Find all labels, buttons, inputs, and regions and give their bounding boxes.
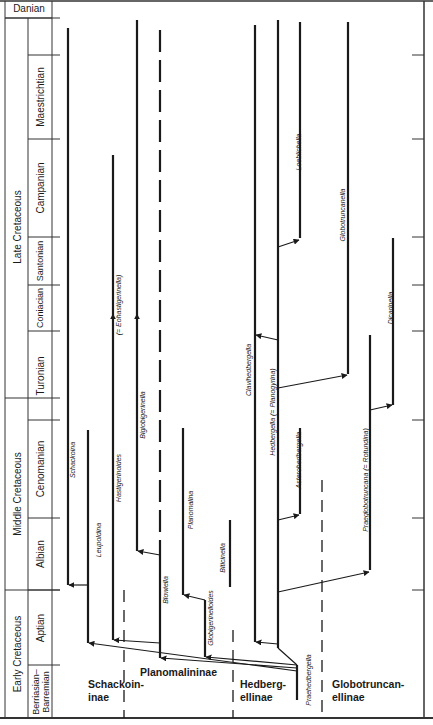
stage-label: Maestrichtian (35, 67, 46, 126)
genus-label: Praeglobotruncana (= Rotundina) (362, 428, 369, 532)
genus-label: Bigiobigerinella (139, 391, 146, 438)
epoch-label: Middle Cretaceous (11, 452, 22, 535)
lineages (68, 20, 393, 700)
stage-label: Barremian (41, 671, 51, 713)
subfamily-label: Schackoin- inae (88, 678, 144, 704)
genus-label: Hastigerinoides (115, 454, 122, 502)
genus-label: Asterohedbergella (295, 432, 302, 489)
stage-label: Coniacian (35, 288, 45, 328)
genus-label: Globigerinelloides (207, 590, 214, 646)
stage-label: Berriasian– (31, 669, 41, 715)
stage-label: Cenomanian (35, 441, 46, 498)
genus-label: Biticinella (219, 543, 226, 573)
genus-label: Hedbergella (= Planogyrina) (269, 368, 276, 455)
genus-label: (= Eohastigerinella) (115, 275, 122, 336)
genus-label: Dicarinella (387, 292, 394, 325)
phylogeny-diagram: Danian Late CretaceousMiddle CretaceousE… (0, 0, 433, 725)
right-axis-ticks (412, 55, 424, 590)
genus-label: Planomalina (187, 491, 194, 530)
genus-label: Leupoldina (95, 523, 102, 557)
frame (0, 1, 433, 718)
stage-label: Aptian (35, 613, 46, 641)
stage-label: Campanian (35, 162, 46, 213)
genus-label: Schackoina (69, 442, 76, 478)
genus-label: Clavihedbergella (245, 344, 252, 396)
subfamily-label: Globotruncan- ellinae (332, 678, 404, 704)
subfamily-separators (124, 480, 322, 718)
genus-label: Praehedbergella (305, 654, 312, 705)
genus-label: Loeblichella (295, 134, 302, 171)
epoch-label: Early Cretaceous (11, 616, 22, 693)
stage-label: Turonian (35, 356, 46, 395)
epoch-label: Late Cretaceous (11, 190, 22, 263)
stage-label: Albian (35, 540, 46, 568)
danian-label: Danian (6, 3, 52, 14)
subfamily-label: Hedberg- ellinae (240, 678, 286, 704)
stage-label: Santonian (35, 241, 45, 282)
genus-label: Blowiella (162, 576, 169, 604)
genus-label: Globotruncanella (339, 189, 346, 242)
subfamily-label: Planomalininae (140, 666, 217, 679)
diagram-canvas (0, 0, 433, 725)
